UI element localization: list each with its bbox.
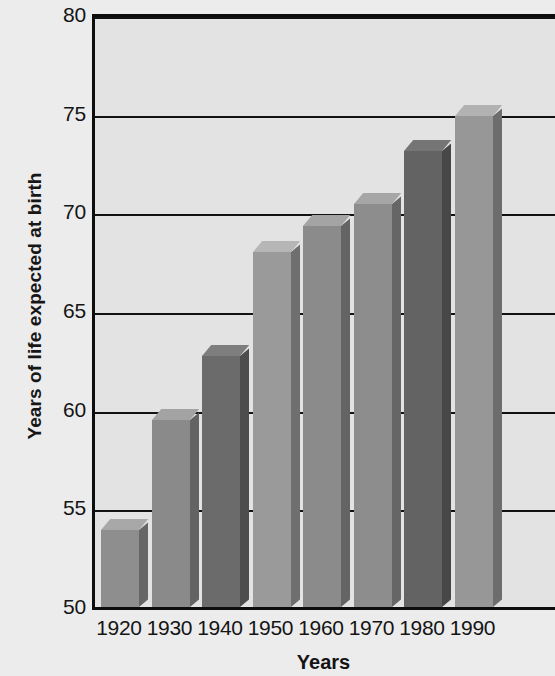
x-tick-label: 1950: [248, 616, 294, 640]
y-tick-label: 70: [42, 200, 86, 224]
bar-front-face: [303, 226, 341, 607]
bar-top-face: [152, 409, 199, 420]
x-axis-title: Years: [92, 651, 555, 674]
bar: [404, 151, 442, 607]
plot-inner: [95, 17, 555, 607]
x-tick-label: 1990: [450, 616, 496, 640]
y-tick-label: 55: [42, 496, 86, 520]
bar-side-face: [291, 244, 300, 607]
bar-side-face: [392, 197, 401, 607]
bar-side-face: [190, 412, 199, 607]
bar-side-face: [240, 349, 249, 607]
plot-area: [92, 14, 555, 610]
x-tick-label: 1940: [197, 616, 243, 640]
x-tick-label: 1980: [399, 616, 445, 640]
bar: [303, 226, 341, 607]
bar-front-face: [354, 204, 392, 607]
y-tick-label: 60: [42, 398, 86, 422]
gridline: [95, 17, 555, 19]
bar-side-face: [493, 108, 502, 607]
bar: [202, 356, 240, 607]
x-tick-label: 1920: [96, 616, 142, 640]
bar-side-face: [442, 144, 451, 607]
bar-front-face: [152, 420, 190, 607]
bar: [152, 420, 190, 607]
x-tick-label: 1930: [147, 616, 193, 640]
y-tick-label: 80: [42, 3, 86, 27]
bar-front-face: [404, 151, 442, 607]
bar-side-face: [139, 522, 148, 607]
bar-front-face: [202, 356, 240, 607]
y-tick-label: 65: [42, 299, 86, 323]
x-tick-label: 1970: [349, 616, 395, 640]
bar-front-face: [253, 252, 291, 607]
y-tick-label: 75: [42, 102, 86, 126]
bar: [354, 204, 392, 607]
bar: [253, 252, 291, 607]
bar-top-face: [455, 105, 502, 116]
x-tick-label: 1960: [298, 616, 344, 640]
bar-front-face: [455, 116, 493, 607]
bar-front-face: [101, 530, 139, 607]
x-axis-tick-labels: 19201930194019501960197019801990: [0, 616, 555, 650]
bar-side-face: [341, 219, 350, 607]
y-axis-tick-labels: 50556065707580: [42, 0, 86, 676]
bar: [455, 116, 493, 607]
chart-figure: Years of life expected at birth 50556065…: [0, 0, 555, 676]
bar: [101, 530, 139, 607]
